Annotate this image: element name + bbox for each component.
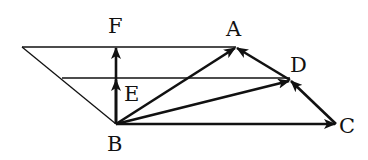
vector-CD	[291, 81, 336, 124]
left-slant-line	[22, 47, 116, 124]
vector-diagram: F A D E B C	[0, 0, 368, 160]
label-A: A	[225, 17, 242, 41]
label-E: E	[124, 82, 139, 106]
label-B: B	[107, 132, 122, 156]
vector-DA	[237, 48, 290, 80]
label-D: D	[290, 53, 307, 77]
vector-BD	[116, 81, 289, 124]
label-F: F	[108, 14, 123, 38]
label-C: C	[339, 114, 355, 138]
